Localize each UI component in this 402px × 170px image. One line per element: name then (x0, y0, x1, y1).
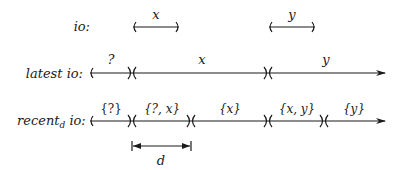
segment-label: y (321, 52, 330, 67)
segment-label: ? (108, 52, 116, 67)
dimension-d: d (132, 141, 191, 168)
segment-label: {x} (219, 102, 241, 116)
dimension-label: d (157, 153, 165, 168)
segment-label: {?, x} (144, 102, 180, 116)
row-label-io: io: (74, 19, 90, 34)
segment-label: {x, y} (279, 102, 315, 116)
timeline-diagram: io: x y latest io: ? x y recentd io: {?}… (0, 0, 402, 170)
io-interval-x: x (133, 7, 179, 32)
segment-label: x (198, 52, 206, 67)
io-interval-y: y (269, 7, 315, 32)
row-label-latest-io: latest io: (26, 66, 83, 81)
latest-io-timeline: ? x y (90, 52, 385, 79)
row-label-recent-io: recentd io: (17, 113, 86, 130)
recent-io-timeline: {?} {?, x} {x} {x, y} {y} (90, 102, 385, 127)
label-tail: io: (65, 113, 86, 128)
segment-label: {?} (100, 102, 122, 116)
diagram: io: x y latest io: ? x y recentd io: {?}… (0, 0, 402, 170)
segment-label: {y} (343, 102, 365, 116)
label-main: recent (17, 113, 60, 128)
interval-label-x: x (152, 7, 160, 22)
interval-label-y: y (287, 7, 296, 22)
